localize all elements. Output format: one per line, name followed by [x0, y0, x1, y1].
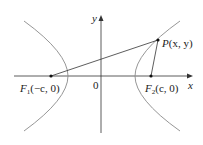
y-axis-label: y — [91, 12, 97, 24]
hyperbola-diagram: y x 0 F1(−c, 0) F2(c, 0) P(x, y) — [0, 0, 203, 145]
x-axis-label: x — [187, 79, 193, 91]
line-f2-to-p — [151, 40, 158, 76]
focus-f1-point — [49, 74, 52, 77]
point-p-label: P(x, y) — [161, 37, 193, 50]
line-f1-to-p — [51, 40, 158, 76]
y-axis-arrow-icon — [99, 15, 104, 21]
focus-f2-point — [149, 74, 152, 77]
x-axis-arrow-icon — [187, 74, 193, 79]
origin-label: 0 — [93, 79, 99, 91]
focus-f2-label: F2(c, 0) — [144, 82, 179, 96]
point-p — [156, 38, 159, 41]
focus-f1-label: F1(−c, 0) — [19, 82, 60, 96]
